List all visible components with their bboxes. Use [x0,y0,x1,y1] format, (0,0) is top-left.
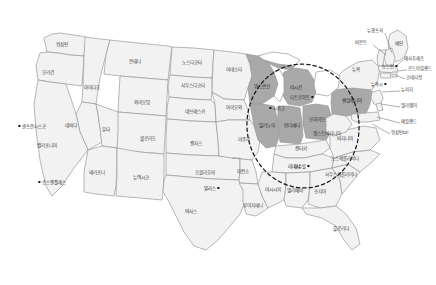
city-dot-icon [312,96,314,98]
state-label-item-7[interactable]: 네브래스카 [185,110,205,115]
city-dot-icon [396,65,398,67]
city-marker-item-3[interactable]: 시카고 [269,105,284,111]
callout-label-item-5[interactable]: 뉴저지 [401,88,413,93]
city-marker-item-0[interactable]: 샌프란시스코 [18,123,45,129]
state-shape-connecticut[interactable] [380,73,391,78]
leader-line-rhode-island [397,70,407,71]
state-label-item-17[interactable]: 미네소타 [226,68,242,73]
state-label-item-21[interactable]: 루이지애나 [243,204,263,209]
callout-label-item-8[interactable]: 워싱턴DC [391,131,409,136]
state-label-item-1[interactable]: 오리건 [42,71,54,76]
state-label-item-25[interactable]: 인디애나 [284,124,300,129]
leader-line-maryland [377,117,400,123]
state-label-item-23[interactable]: 미시간 [290,86,302,91]
state-label-item-9[interactable]: 유타 [102,128,110,133]
state-label-item-2[interactable]: 아이다호 [84,86,100,91]
city-dot-icon [38,181,40,183]
state-shape-kansas[interactable] [166,119,219,156]
city-marker-item-6[interactable]: 뉴욕시 [371,81,386,87]
city-marker-item-2[interactable]: 댈러스 [204,185,219,191]
state-label-item-8[interactable]: 네바다 [65,124,77,129]
state-label-item-22[interactable]: 위스콘신 [254,85,270,90]
state-label-item-37[interactable]: 웨스트버지니아 [313,132,340,137]
state-label-item-26[interactable]: 오하이오 [309,118,325,123]
state-label-item-0[interactable]: 워싱턴 [56,43,68,48]
state-label-item-28[interactable]: 켄터키 [295,147,307,152]
state-label-item-18[interactable]: 아이오와 [226,106,242,111]
city-label: 내슈빌 [294,163,306,169]
state-label-item-24[interactable]: 일리노이 [259,124,275,129]
city-label: 보스턴 [382,63,394,69]
city-marker-item-1[interactable]: 로스앤젤레스 [38,179,65,185]
state-label-item-31[interactable]: 앨라배마 [287,189,303,194]
city-label: 로스앤젤레스 [42,179,66,185]
callout-label-item-4[interactable]: 코네티컷 [406,76,422,81]
leader-line-delaware [381,104,400,107]
city-marker-item-7[interactable]: 보스턴 [382,63,397,69]
leader-line-new-jersey [382,91,400,92]
city-label: 디트로이트 [290,94,310,100]
callout-label-item-3[interactable]: 로드아일랜드 [408,67,431,72]
callout-label-item-2[interactable]: 매사추세츠 [404,57,424,62]
city-label: 샌프란시스코 [22,123,46,129]
city-label: 댈러스 [204,185,216,191]
state-label-item-6[interactable]: 사우스다코타 [181,84,204,89]
state-label-item-10[interactable]: 콜로라도 [140,137,156,142]
state-label-item-38[interactable]: 뉴욕 [352,68,360,73]
state-label-item-27[interactable]: 펜실베니아 [342,99,362,104]
city-marker-item-4[interactable]: 디트로이트 [290,94,313,100]
state-label-item-4[interactable]: 와이오밍 [134,101,150,106]
city-dot-icon [18,125,20,127]
state-label-item-14[interactable]: 뉴멕시코 [133,176,149,181]
callout-label-item-7[interactable]: 메릴랜드 [401,120,417,125]
callout-label-item-0[interactable]: 뉴햄프셔 [367,29,383,34]
callout-label-item-6[interactable]: 델라웨어 [401,104,417,109]
state-label-item-15[interactable]: 오클라호마 [195,171,215,176]
state-label-item-39[interactable]: 메인 [395,42,403,47]
city-dot-icon [218,187,220,189]
state-label-item-33[interactable]: 플로리다 [333,227,349,232]
us-map-container: 워싱턴오리건아이다호몬태나와이오밍노스다코타사우스다코타네브래스카네바다유타콜로… [0,0,436,285]
state-label-item-11[interactable]: 캔자스 [190,142,202,147]
state-label-item-34[interactable]: 사우스캐롤라이나 [325,173,356,178]
state-label-item-30[interactable]: 미시시피 [265,188,281,193]
state-label-item-20[interactable]: 아칸소 [237,170,249,175]
state-shape-wyoming[interactable] [118,76,168,116]
city-dot-icon [385,83,387,85]
state-label-item-32[interactable]: 조지아 [314,190,326,195]
state-label-item-13[interactable]: 애리조나 [89,171,105,176]
state-shape-maryland[interactable] [351,112,380,122]
city-label: 뉴욕시 [371,81,383,87]
city-label: 시카고 [273,105,285,111]
city-dot-icon [269,107,271,109]
state-shape-florida[interactable] [302,206,360,250]
state-label-item-36[interactable]: 버지니아 [337,137,353,142]
city-dot-icon [308,165,310,167]
state-label-item-16[interactable]: 텍사스 [185,210,197,215]
state-label-item-12[interactable]: 캘리포니아 [37,144,57,149]
state-label-item-35[interactable]: 노스캐롤라이나 [331,157,358,162]
callout-label-item-1[interactable]: 버몬트 [355,41,367,46]
state-shape-minnesota[interactable] [212,50,252,100]
state-shape-colorado[interactable] [117,112,166,154]
state-label-item-19[interactable]: 미주리 [238,138,250,143]
state-label-item-5[interactable]: 노스다코타 [182,61,202,66]
state-label-item-3[interactable]: 몬태나 [129,60,141,65]
city-marker-item-5[interactable]: 내슈빌 [294,163,309,169]
